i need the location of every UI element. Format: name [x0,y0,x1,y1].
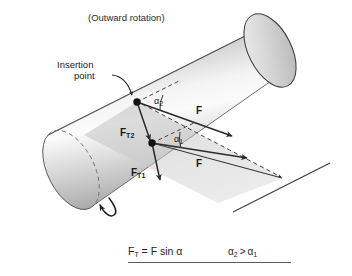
alpha2-subscript: 2 [159,100,163,107]
angle-label-alpha1: α1 [174,134,183,146]
cylinder-group [43,6,307,216]
compare-right-subscript: 1 [253,251,257,258]
ft1-subscript: T1 [137,172,145,179]
insertion-point-dot-upper [133,98,140,105]
force-label-lower: F [196,158,202,169]
tangential-label-ft1: FT1 [131,167,145,180]
insertion-point-label-line2: point [57,71,95,82]
figure-title: (Outward rotation) [88,13,165,24]
force-vector-diagram: (Outward rotation) Insertion point α2 α1… [0,0,352,276]
rotation-direction-arrow [100,198,116,216]
alpha1-subscript: 1 [179,138,183,145]
formula-rhs: = F sin α [139,245,183,257]
compare-operator: > [238,246,248,257]
insertion-point-dot-lower [148,139,155,146]
insertion-point-label-line1: Insertion [57,59,93,70]
formula-expression: FT = F sin α [128,245,182,258]
formula-underline [128,262,291,263]
formula-row: FT = F sin α α2>α1 [128,245,292,261]
force-label-upper: F [196,105,202,116]
insertion-point-leader-arrow [112,75,132,95]
insertion-point-label: Insertion point [57,60,95,81]
ft2-subscript: T2 [126,132,134,139]
tangential-label-ft2: FT2 [120,127,134,140]
angle-label-alpha2: α2 [154,96,163,108]
angle-comparison: α2>α1 [228,246,257,258]
